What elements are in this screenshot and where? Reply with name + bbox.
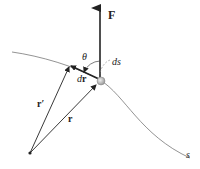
r-prime-label: r′ [37, 98, 44, 109]
path-label: s [186, 149, 190, 160]
dr-label: dr [77, 73, 87, 84]
r-label: r [68, 113, 73, 124]
work-diagram: F θ ds dr r′ r s [0, 0, 200, 169]
force-label: F [108, 8, 115, 22]
origin-point [28, 151, 31, 154]
dr-label-r: r [82, 73, 87, 84]
ds-label: ds [112, 56, 121, 67]
ds-leader [100, 60, 110, 74]
theta-label: θ [82, 51, 87, 62]
r-prime-vector [30, 67, 69, 153]
theta-arc [84, 61, 100, 72]
particle [97, 77, 105, 85]
r-vector [30, 85, 96, 153]
